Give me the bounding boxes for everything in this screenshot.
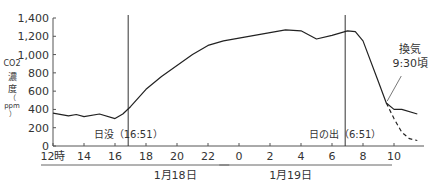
x-axis: 12時14161820220246810: [41, 143, 425, 163]
event-label: 日没（16:51）: [94, 129, 163, 140]
y-label-part: 濃: [8, 71, 17, 82]
date-group-label: 1月19日: [269, 169, 312, 182]
x-tick-label: 8: [360, 150, 367, 163]
y-axis: 02004006008001,0001,2001,400: [18, 12, 57, 153]
x-tick-label: 2: [267, 150, 274, 163]
callout-label: 換気: [399, 42, 421, 56]
annotation-lines: 日没（16:51）日の出（6:51）: [94, 15, 382, 146]
y-tick-label: 1,400: [18, 12, 50, 25]
y-tick-label: 1,200: [18, 30, 50, 43]
y-axis-label: CO2濃度（ppm）: [4, 59, 21, 118]
y-tick-label: 400: [28, 103, 49, 116]
date-group-label: 1月18日: [154, 169, 197, 182]
x-tick-label: 10: [387, 150, 401, 163]
y-label-part: （: [9, 94, 16, 102]
callout-time: 9:30頃: [392, 57, 428, 70]
x-tick-label: 14: [77, 150, 91, 163]
event-label: 日の出（6:51）: [309, 128, 381, 140]
x-tick-label: 20: [170, 150, 184, 163]
co2-series-line: [53, 30, 417, 119]
x-tick-label: 4: [298, 150, 305, 163]
y-tick-label: 600: [28, 85, 49, 98]
x-axis-date-groups: 1月18日1月19日: [41, 165, 392, 182]
x-tick-label: 16: [108, 150, 122, 163]
x-tick-label: 12時: [41, 150, 66, 163]
dashed-series-line: [386, 103, 417, 141]
co2-line-chart: 02004006008001,0001,2001,400 CO2濃度（ppm） …: [0, 0, 429, 187]
data-series: [53, 30, 417, 141]
y-label-part: CO2: [4, 59, 21, 68]
x-tick-label: 6: [329, 150, 336, 163]
y-tick-label: 800: [28, 67, 49, 80]
x-tick-label: 0: [236, 150, 243, 163]
callout-leader: [387, 76, 401, 101]
annotation-callouts: 換気9:30頃: [387, 42, 428, 101]
y-tick-label: 200: [28, 122, 49, 135]
y-label-part: ）: [9, 110, 16, 118]
y-tick-label: 1,000: [18, 49, 50, 62]
x-tick-label: 22: [201, 150, 215, 163]
x-tick-label: 18: [139, 150, 153, 163]
y-label-part: ppm: [4, 102, 20, 110]
y-label-part: 度: [8, 83, 17, 94]
